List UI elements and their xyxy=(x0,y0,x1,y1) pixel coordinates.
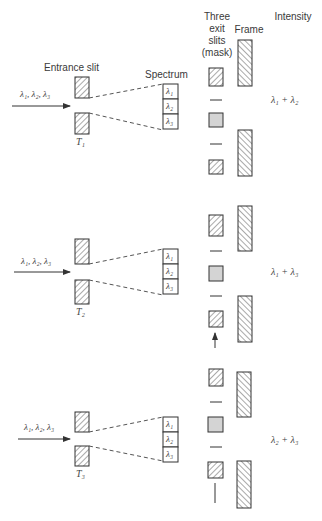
input-label-3: λ₁, λ₂, λ₃ xyxy=(24,422,54,432)
intensity-label-1: λ₁ + λ₂ xyxy=(271,94,298,105)
spectrum-cell-1: λ₁ xyxy=(166,251,173,261)
intensity-label-2: λ₁ + λ₃ xyxy=(271,266,298,277)
panel-3 xyxy=(18,369,251,508)
spectrum-cell-3: λ₃ xyxy=(166,449,173,459)
header-entrance-slit: Entrance slit xyxy=(44,62,124,74)
panel-2 xyxy=(14,206,252,348)
header-spectrum: Spectrum xyxy=(145,69,195,81)
spectrum-cell-2: λ₂ xyxy=(166,266,173,276)
spectrum-cell-2: λ₂ xyxy=(166,101,173,111)
header-frame: Frame xyxy=(234,24,264,36)
spectrum-cell-1: λ₁ xyxy=(166,419,173,429)
time-label-2: T₂ xyxy=(76,306,85,317)
spectrum-cell-1: λ₁ xyxy=(166,86,173,96)
intensity-label-3: λ₂ + λ₃ xyxy=(271,434,298,445)
spectrum-cell-3: λ₃ xyxy=(166,116,173,126)
input-label-2: λ₁, λ₂, λ₃ xyxy=(21,256,51,266)
header-exit-slits: Three exit slits (mask) xyxy=(196,11,238,59)
panel-1 xyxy=(12,40,252,176)
time-label-3: T₃ xyxy=(76,468,85,479)
spectrum-cell-3: λ₃ xyxy=(166,281,173,291)
entrance-slit-jaw-bottom xyxy=(75,113,89,134)
spectrum-cell-2: λ₂ xyxy=(166,434,173,444)
entrance-slit-jaw-top xyxy=(75,77,89,98)
input-label-1: λ₁, λ₂, λ₃ xyxy=(20,89,50,99)
header-intensity: Intensity xyxy=(268,11,318,23)
time-label-1: T₁ xyxy=(76,136,85,147)
